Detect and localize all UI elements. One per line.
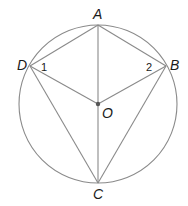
segment-ad [30,25,98,66]
angle-label-1: 1 [41,61,47,73]
label-b: B [170,57,179,73]
label-a: A [92,6,102,22]
segment-ab [98,25,166,66]
center-point-o [96,102,100,106]
segment-bc [98,66,166,183]
label-d: D [17,57,27,73]
segment-dc [30,66,98,183]
label-c: C [93,186,104,202]
angle-label-2: 2 [146,61,152,73]
segment-bo [98,66,166,104]
circle-geometry-diagram: A B C D O 1 2 [0,0,188,206]
label-o: O [102,105,113,121]
